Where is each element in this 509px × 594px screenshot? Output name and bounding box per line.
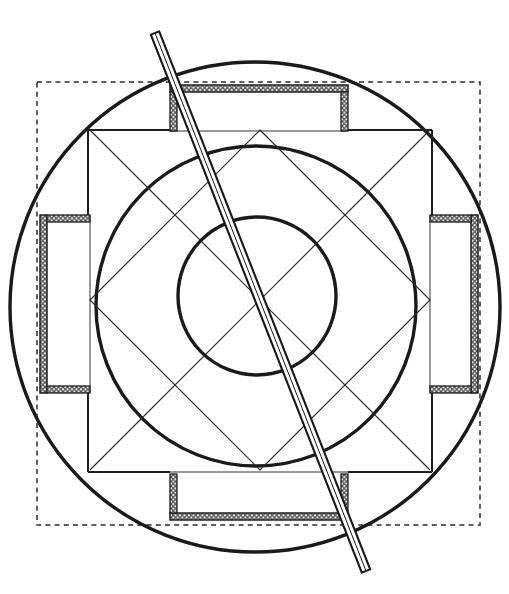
- figure-canvas: Geometric technical line drawing Patent-…: [0, 0, 509, 594]
- technical-drawing-svg: [0, 0, 509, 594]
